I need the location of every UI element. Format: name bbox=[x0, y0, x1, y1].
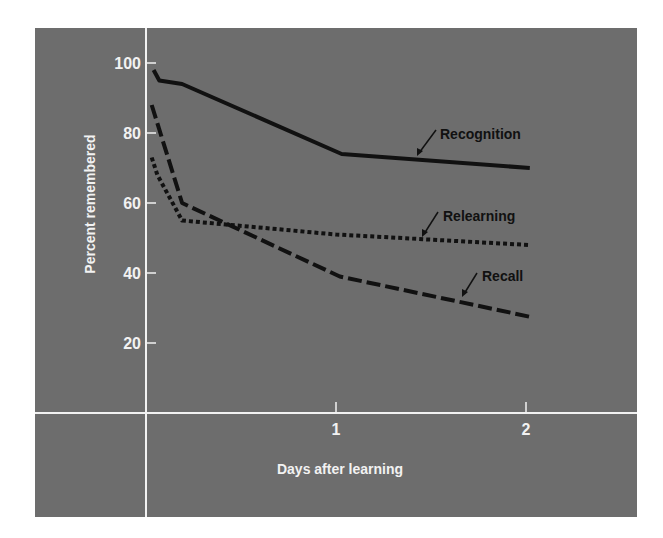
y-tick-label: 60 bbox=[123, 195, 141, 212]
x-axis-label: Days after learning bbox=[277, 461, 403, 477]
x-tick-label: 1 bbox=[332, 421, 341, 438]
series-relearning-line bbox=[152, 158, 530, 246]
arrow-relearning bbox=[424, 212, 438, 234]
series-recognition-line bbox=[154, 70, 530, 168]
label-relearning: Relearning bbox=[443, 208, 515, 224]
label-recognition: Recognition bbox=[440, 126, 521, 142]
x-tick-label: 2 bbox=[522, 421, 531, 438]
label-recall: Recall bbox=[482, 268, 523, 284]
arrow-recognition bbox=[419, 130, 436, 153]
y-ticks: 20406080100 bbox=[114, 55, 156, 352]
y-tick-label: 40 bbox=[123, 265, 141, 282]
y-tick-label: 100 bbox=[114, 55, 141, 72]
line-chart: 20406080100 12 Percent remembered Days a… bbox=[0, 0, 663, 538]
y-tick-label: 80 bbox=[123, 125, 141, 142]
y-axis-label: Percent remembered bbox=[82, 134, 98, 273]
x-ticks: 12 bbox=[332, 402, 531, 438]
y-tick-label: 20 bbox=[123, 335, 141, 352]
arrow-recall bbox=[464, 273, 477, 294]
